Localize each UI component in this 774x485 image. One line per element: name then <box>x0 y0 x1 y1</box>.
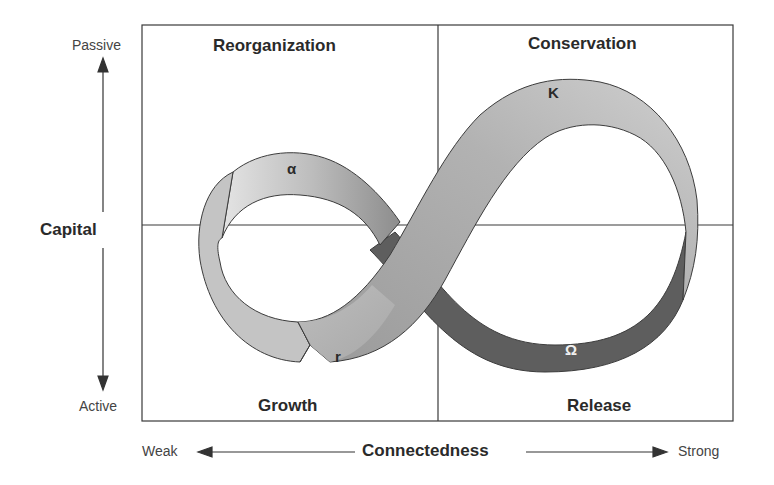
x-axis-left-label: Weak <box>142 443 178 459</box>
r-label: r <box>335 348 341 365</box>
alpha-band <box>222 153 400 245</box>
alpha-label: α <box>287 160 296 177</box>
quadrant-title-conservation: Conservation <box>528 34 637 54</box>
quadrant-title-release: Release <box>567 396 631 416</box>
r-band <box>298 285 395 362</box>
x-axis-title: Connectedness <box>362 441 489 461</box>
quadrant-title-growth: Growth <box>258 396 318 416</box>
y-axis-top-label: Passive <box>72 37 121 53</box>
k-label: K <box>548 84 559 101</box>
y-axis-title: Capital <box>40 220 97 240</box>
capital-axis-arrow <box>98 58 108 390</box>
y-axis-bottom-label: Active <box>79 398 117 414</box>
omega-label: Ω <box>565 341 577 358</box>
x-axis-right-label: Strong <box>678 443 719 459</box>
quadrant-title-reorganization: Reorganization <box>213 36 336 56</box>
